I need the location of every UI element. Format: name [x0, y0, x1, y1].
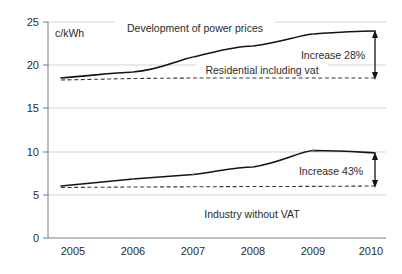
increase-28-label: Increase 28%	[301, 49, 365, 61]
x-tick-label-2008: 2008	[241, 245, 265, 257]
increase-43-arrowhead-bottom	[372, 180, 378, 188]
industry-baseline-dashed	[61, 186, 375, 188]
x-axis-tick-labels: 2005 2006 2007 2008 2009 2010	[61, 245, 383, 257]
chart-title: Development of power prices	[127, 22, 263, 34]
x-tick-label-2010: 2010	[359, 245, 383, 257]
increase-43-label: Increase 43%	[299, 165, 363, 177]
y-tick-label-15: 15	[27, 102, 39, 114]
industry-marker-2007	[192, 173, 194, 175]
y-tick-label-5: 5	[33, 189, 39, 201]
industry-markers	[132, 149, 314, 180]
residential-marker-2008	[252, 45, 254, 47]
industry-series-label: Industry without VAT	[204, 208, 300, 220]
increase-28-arrow	[372, 30, 378, 80]
industry-marker-2006	[132, 178, 134, 180]
x-tick-label-2006: 2006	[121, 245, 145, 257]
x-tick-label-2009: 2009	[301, 245, 325, 257]
industry-marker-2008	[252, 166, 254, 168]
residential-marker-2009	[312, 33, 314, 35]
y-tick-label-25: 25	[27, 16, 39, 28]
industry-marker-2009	[312, 149, 314, 151]
y-axis-unit-label: c/kWh	[55, 27, 84, 39]
chart-canvas: 25 20 15 10 5 0 2005 2006 2007 2008 2009…	[0, 0, 402, 274]
increase-43-arrow	[372, 152, 378, 188]
x-tick-label-2005: 2005	[61, 245, 85, 257]
residential-baseline-dashed	[61, 78, 375, 80]
power-prices-chart: 25 20 15 10 5 0 2005 2006 2007 2008 2009…	[0, 0, 402, 274]
y-tick-label-20: 20	[27, 59, 39, 71]
residential-marker-2007	[192, 56, 194, 58]
annotations: Development of power prices Increase 28%…	[115, 20, 371, 221]
y-tick-label-0: 0	[33, 232, 39, 244]
y-tick-label-10: 10	[27, 146, 39, 158]
x-tick-label-2007: 2007	[181, 245, 205, 257]
y-axis-tick-labels: 25 20 15 10 5 0	[27, 16, 39, 244]
residential-series-label: Residential including vat	[205, 64, 318, 76]
residential-marker-2006	[132, 71, 134, 73]
increase-28-arrowhead-bottom	[372, 72, 378, 80]
